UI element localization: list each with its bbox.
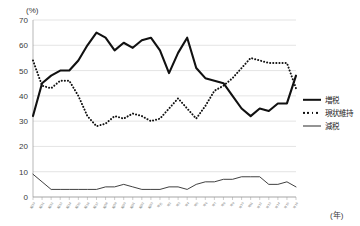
y-axis-tick-label: 20 — [19, 142, 28, 151]
chart-figure: (%) (年) 010203040506070昭50昭51昭52昭53昭54昭5… — [0, 0, 360, 226]
x-axis-tick-label: 昭58 — [102, 201, 109, 209]
x-axis-tick-label: 平8 — [221, 201, 227, 207]
y-axis-tick-label: 0 — [24, 193, 29, 202]
legend-item-label: 増税 — [325, 94, 339, 105]
series-line-減税 — [33, 174, 296, 189]
y-axis-tick-label: 60 — [19, 41, 28, 50]
chart-legend: 増税現状維持減税 — [303, 93, 353, 132]
legend-item[interactable]: 増税 — [303, 93, 353, 106]
x-axis-tick-label: 平11 — [247, 201, 254, 209]
x-axis-tick-label: 平元 — [157, 202, 163, 209]
x-axis-tick-label: 平16 — [292, 201, 299, 209]
x-axis-tick-label: 平7 — [212, 201, 218, 207]
legend-swatch-icon — [303, 121, 321, 131]
x-axis-tick-label: 平6 — [203, 201, 209, 207]
x-axis-tick-label: 平10 — [238, 201, 245, 209]
x-axis-tick-label: 昭53 — [57, 201, 64, 209]
x-axis-tick-label: 平14 — [274, 201, 281, 209]
legend-swatch-icon — [303, 108, 321, 118]
y-axis-tick-label: 70 — [19, 16, 28, 25]
y-axis-tick-label: 40 — [19, 92, 28, 101]
x-axis-tick-label: 平3 — [175, 201, 181, 207]
x-axis-tick-label: 平15 — [283, 201, 290, 209]
x-axis-tick-label: 昭59 — [111, 201, 118, 209]
x-axis-tick-label: 平12 — [256, 201, 263, 209]
x-axis-tick-label: 昭56 — [84, 201, 91, 209]
x-axis-tick-label: 昭57 — [93, 201, 100, 209]
x-axis-tick-label: 昭50 — [29, 201, 36, 209]
y-axis-tick-label: 50 — [19, 67, 28, 76]
x-axis-tick-label: 昭60 — [120, 201, 127, 209]
x-axis-tick-label: 平2 — [166, 201, 172, 207]
x-axis-tick-label: 昭51 — [38, 201, 45, 209]
y-axis-tick-label: 30 — [19, 117, 28, 126]
x-axis-tick-label: 昭63 — [147, 201, 154, 209]
x-axis-tick-label: 平9 — [230, 201, 236, 207]
x-axis-tick-label: 平13 — [265, 201, 272, 209]
legend-item-label: 現状維持 — [325, 107, 353, 118]
x-axis-tick-label: 昭55 — [75, 201, 82, 209]
x-axis-tick-label: 昭54 — [66, 201, 73, 209]
x-axis-tick-label: 平4 — [184, 201, 190, 207]
legend-item[interactable]: 減税 — [303, 119, 353, 132]
x-axis-tick-label: 平5 — [193, 201, 199, 207]
legend-item-label: 減税 — [325, 120, 339, 131]
legend-item[interactable]: 現状維持 — [303, 106, 353, 119]
x-axis-tick-label: 昭52 — [48, 201, 55, 209]
x-axis-tick-label: 昭61 — [129, 201, 136, 209]
y-axis-tick-label: 10 — [19, 168, 28, 177]
legend-swatch-icon — [303, 95, 321, 105]
x-axis-tick-label: 昭62 — [138, 201, 145, 209]
